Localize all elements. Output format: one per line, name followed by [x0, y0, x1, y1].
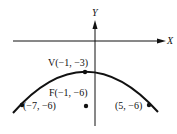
- vertex-point: [83, 70, 87, 74]
- left-point-label: (−7, −6): [23, 101, 56, 111]
- y-axis-label: Y: [92, 8, 98, 18]
- parabola-diagram: [0, 0, 177, 134]
- x-axis-label: X: [167, 36, 173, 46]
- y-axis-arrow-icon: [93, 20, 98, 29]
- x-axis-arrow-icon: [157, 39, 166, 44]
- focus-label: F(−1, −6): [49, 88, 88, 98]
- vertex-label: V(−1, −3): [48, 58, 88, 68]
- focus-point: [84, 104, 88, 108]
- right-point-label: (5, −6): [115, 101, 142, 111]
- right-point: [147, 103, 151, 107]
